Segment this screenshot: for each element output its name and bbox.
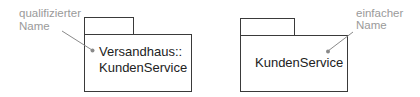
package-name-simple: KundenService xyxy=(99,60,187,75)
leader-dot xyxy=(326,50,330,54)
leader-dot xyxy=(91,49,95,53)
annotation-line-2: Name xyxy=(19,20,50,32)
uml-package-diagram: Versandhaus:: KundenService qualifiziert… xyxy=(0,0,420,97)
package-tab xyxy=(85,18,134,35)
annotation-line-1: einfacher xyxy=(356,7,403,19)
package-qualified-name: Versandhaus:: KundenService xyxy=(85,18,192,92)
package-simple-name: KundenService xyxy=(241,19,348,92)
package-name-qualifier: Versandhaus:: xyxy=(99,44,182,59)
annotation-line-2: Name xyxy=(356,19,387,31)
package-name-simple: KundenService xyxy=(255,55,343,70)
annotation-line-1: qualifizierter xyxy=(19,7,81,19)
package-tab xyxy=(241,19,295,36)
annotation-qualified-name: qualifizierter Name xyxy=(19,7,95,53)
